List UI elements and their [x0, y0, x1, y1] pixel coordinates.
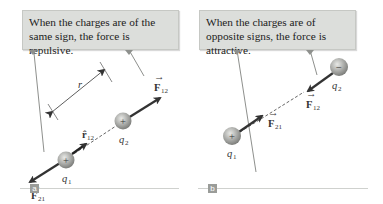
svg-text:q: q [119, 134, 124, 145]
panel-tag-b: b [208, 184, 217, 193]
divider-b [217, 188, 368, 189]
svg-text:21: 21 [275, 123, 283, 131]
leader-line-b-left [237, 50, 256, 172]
charge-sign-q1-b: + [229, 131, 235, 142]
svg-text:→: → [154, 71, 165, 82]
svg-text:1: 1 [233, 153, 237, 161]
r-label: r [78, 79, 83, 90]
svg-text:q: q [227, 148, 232, 159]
panel-b: + − q 1 q 2 → F 12 → F 21 [223, 50, 348, 172]
force-arrow-f12-a [128, 98, 160, 118]
svg-text:12: 12 [313, 104, 321, 112]
r-dimension-line [52, 70, 104, 112]
q1-label-a: q 1 [62, 173, 72, 186]
charge-sign-q2-b: − [336, 62, 342, 73]
panel-a: r + + q 1 q 2 r̂ 12 → F 12 → [29, 50, 169, 203]
q2-label-b: q 2 [332, 80, 342, 93]
svg-text:1: 1 [68, 178, 72, 186]
svg-text:12: 12 [87, 134, 95, 142]
charge-sign-q1-a: + [63, 155, 69, 166]
unit-vector-r12 [72, 144, 86, 154]
leader-line-a-right [129, 50, 144, 76]
divider-a-left [20, 188, 30, 189]
svg-text:12: 12 [161, 87, 169, 95]
svg-text:F: F [268, 118, 274, 129]
svg-text:q: q [332, 80, 337, 91]
leader-line-b-right [310, 50, 317, 75]
divider-a [39, 188, 179, 189]
leader-pin-b-left [233, 50, 241, 55]
coulomb-diagram: r + + q 1 q 2 r̂ 12 → F 12 → [0, 0, 383, 204]
svg-text:→: → [306, 88, 317, 99]
svg-text:21: 21 [38, 195, 46, 203]
f21-label-b: → F 21 [268, 107, 283, 131]
svg-text:F: F [306, 99, 312, 110]
r12-label: r̂ 12 [82, 129, 95, 142]
charge-sign-q2-a: + [120, 116, 126, 127]
f12-label-b: → F 12 [306, 88, 321, 112]
svg-text:2: 2 [338, 85, 342, 93]
svg-text:q: q [62, 173, 67, 184]
divider-b-left [198, 188, 208, 189]
r-extension-left [48, 104, 58, 120]
q2-label-a: q 2 [119, 134, 129, 147]
panel-tag-a: a [30, 184, 39, 193]
leader-line-a-left [33, 50, 44, 152]
svg-text:F: F [154, 82, 160, 93]
svg-text:→: → [268, 107, 279, 118]
svg-text:2: 2 [125, 139, 129, 147]
leader-pin-a-left [29, 50, 37, 55]
f12-label-a: → F 12 [154, 71, 169, 95]
q1-label-b: q 1 [227, 148, 237, 161]
leader-pin-b-right [306, 50, 314, 55]
